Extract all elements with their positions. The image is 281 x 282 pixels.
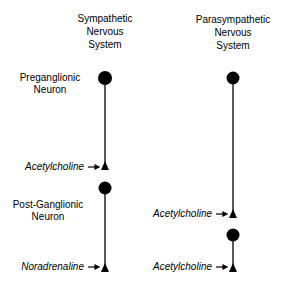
- para-post-neurotransmitter: Acetylcholine: [153, 261, 212, 272]
- arrowhead-icon: [95, 265, 99, 269]
- para-pre-neurotransmitter: Acetylcholine: [153, 208, 212, 219]
- neuron-diagram: [0, 0, 281, 282]
- symp-pre-terminal-icon: [101, 161, 109, 170]
- symp-post-neurotransmitter: Noradrenaline: [21, 261, 84, 272]
- arrowhead-icon: [95, 165, 99, 169]
- symp-pre-neurotransmitter: Acetylcholine: [25, 161, 84, 172]
- arrowhead-icon: [223, 265, 227, 269]
- arrowhead-icon: [223, 212, 227, 216]
- para-pre-terminal-icon: [229, 209, 237, 218]
- symp-post-terminal-icon: [101, 263, 109, 272]
- para-post-terminal-icon: [229, 263, 237, 272]
